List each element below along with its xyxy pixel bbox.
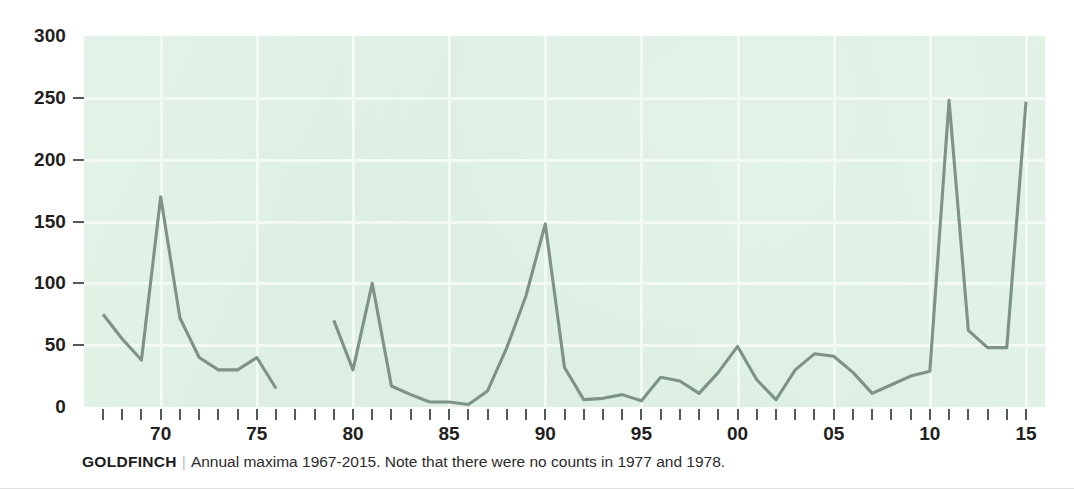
y-axis-tick-dash	[73, 282, 84, 284]
x-axis-tick-1991	[564, 409, 566, 420]
x-axis-tick-2009	[910, 409, 912, 420]
x-axis-label-90: 90	[535, 423, 556, 445]
x-axis-label-80: 80	[342, 423, 363, 445]
x-axis-tick-1982	[390, 409, 392, 420]
x-axis-tick-1990	[544, 409, 546, 420]
x-axis-tick-1998	[698, 409, 700, 420]
x-axis-tick-1970	[160, 409, 162, 420]
x-axis-tick-1989	[525, 409, 527, 420]
x-axis-tick-1976	[275, 409, 277, 420]
x-axis-tick-1971	[179, 409, 181, 420]
x-axis-label-95: 95	[631, 423, 652, 445]
x-axis-tick-2011	[948, 409, 950, 420]
y-axis-tick-dash	[73, 406, 84, 408]
x-axis-tick-1967	[102, 409, 104, 420]
x-axis-tick-2001	[756, 409, 758, 420]
plot-area	[84, 36, 1045, 407]
x-axis-tick-2015	[1025, 409, 1027, 420]
series-line-goldfinch	[84, 36, 1045, 407]
x-axis-tick-1969	[140, 409, 142, 420]
y-axis-tick-0: 0	[55, 397, 84, 417]
x-axis-tick-1983	[410, 409, 412, 420]
x-axis-tick-1995	[640, 409, 642, 420]
y-axis-tick-label: 0	[55, 397, 66, 417]
x-axis-tick-2000	[737, 409, 739, 420]
y-axis-tick-50: 50	[45, 335, 84, 355]
y-axis-tick-300: 300	[34, 26, 84, 46]
x-axis-label-15: 15	[1015, 423, 1036, 445]
x-axis-tick-1996	[660, 409, 662, 420]
y-axis-tick-dash	[73, 344, 84, 346]
x-axis-tick-1968	[121, 409, 123, 420]
y-axis-tick-label: 100	[34, 273, 66, 293]
x-axis-tick-2005	[833, 409, 835, 420]
caption: GOLDFINCH|Annual maxima 1967-2015. Note …	[82, 452, 1042, 472]
x-axis-tick-1993	[602, 409, 604, 420]
x-axis-tick-1977	[294, 409, 296, 420]
y-axis-tick-150: 150	[34, 212, 84, 232]
x-axis-tick-1985	[448, 409, 450, 420]
x-axis-tick-2010	[929, 409, 931, 420]
y-axis-tick-dash	[73, 35, 84, 37]
x-axis-tick-1975	[256, 409, 258, 420]
x-axis-tick-1994	[621, 409, 623, 420]
y-axis-tick-dash	[73, 97, 84, 99]
caption-note: Annual maxima 1967-2015. Note that there…	[191, 453, 725, 470]
x-axis-label-85: 85	[439, 423, 460, 445]
series-segment-2	[334, 100, 1026, 404]
x-axis-tick-2007	[871, 409, 873, 420]
y-axis-tick-label: 200	[34, 150, 66, 170]
x-axis-tick-1980	[352, 409, 354, 420]
y-axis-tick-250: 250	[34, 88, 84, 108]
goldfinch-annual-maxima-chart: 050100150200250300 70758085909500051015 …	[0, 0, 1074, 489]
x-axis-tick-1987	[487, 409, 489, 420]
x-axis-label-00: 00	[727, 423, 748, 445]
x-axis-label-05: 05	[823, 423, 844, 445]
x-axis-tick-2004	[813, 409, 815, 420]
x-axis-label-70: 70	[150, 423, 171, 445]
x-axis-tick-1988	[506, 409, 508, 420]
y-axis-tick-label: 50	[45, 335, 66, 355]
x-axis-tick-1979	[333, 409, 335, 420]
y-axis-tick-label: 150	[34, 212, 66, 232]
x-axis: 70758085909500051015	[84, 407, 1045, 447]
x-axis-tick-1997	[679, 409, 681, 420]
x-axis-label-75: 75	[246, 423, 267, 445]
y-axis: 050100150200250300	[0, 0, 84, 440]
x-axis-tick-1992	[583, 409, 585, 420]
caption-species: GOLDFINCH	[82, 453, 177, 470]
x-axis-tick-2003	[794, 409, 796, 420]
x-axis-tick-1978	[314, 409, 316, 420]
x-axis-tick-1973	[217, 409, 219, 420]
x-axis-tick-2006	[852, 409, 854, 420]
x-axis-tick-1984	[429, 409, 431, 420]
y-axis-tick-label: 250	[34, 88, 66, 108]
x-axis-label-10: 10	[919, 423, 940, 445]
caption-divider: |	[177, 453, 191, 470]
y-axis-tick-dash	[73, 221, 84, 223]
x-axis-tick-1974	[237, 409, 239, 420]
x-axis-tick-1981	[371, 409, 373, 420]
x-axis-tick-2012	[967, 409, 969, 420]
series-segment-1	[103, 197, 276, 389]
x-axis-tick-2002	[775, 409, 777, 420]
x-axis-tick-1972	[198, 409, 200, 420]
x-axis-tick-2013	[987, 409, 989, 420]
x-axis-tick-1986	[467, 409, 469, 420]
x-axis-tick-2014	[1006, 409, 1008, 420]
y-axis-tick-label: 300	[34, 26, 66, 46]
y-axis-tick-dash	[73, 159, 84, 161]
x-axis-tick-2008	[890, 409, 892, 420]
x-axis-tick-1999	[717, 409, 719, 420]
y-axis-tick-200: 200	[34, 150, 84, 170]
y-axis-tick-100: 100	[34, 273, 84, 293]
